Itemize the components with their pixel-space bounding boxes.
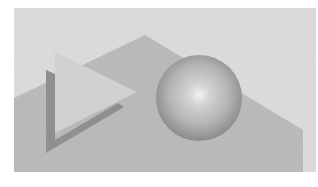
illustration-canvas (0, 0, 318, 187)
illustration: Grayscale illustration of simple geometr… (0, 0, 318, 187)
sphere-shape (156, 55, 242, 141)
